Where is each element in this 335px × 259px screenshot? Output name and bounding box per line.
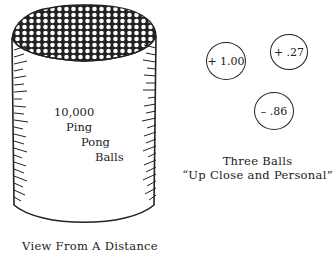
container-label-line-4: Balls — [95, 150, 124, 165]
container-label-line-1: 10,000 — [54, 105, 94, 120]
closeup-caption: Three Balls “Up Close and Personal” — [180, 154, 335, 182]
ball-positive-one: + 1.00 — [206, 42, 246, 80]
ball-value: – .86 — [261, 105, 288, 118]
ball-positive-27: + .27 — [270, 34, 308, 70]
distance-caption: View From A Distance — [20, 239, 160, 253]
container-label-line-2: Ping — [66, 120, 92, 135]
container-label-line-3: Pong — [81, 135, 110, 150]
ball-value: + 1.00 — [207, 55, 244, 68]
ball-negative-86: – .86 — [254, 92, 294, 130]
ball-value: + .27 — [274, 46, 304, 59]
closeup-caption-line-1: Three Balls — [180, 154, 335, 168]
closeup-caption-line-2: “Up Close and Personal” — [180, 168, 335, 182]
